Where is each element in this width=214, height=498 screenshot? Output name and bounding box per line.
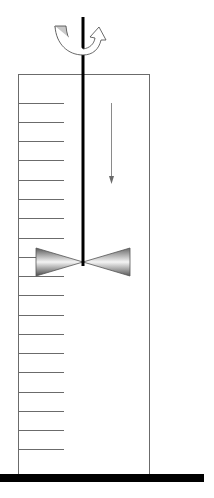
stirred-tank-diagram <box>0 0 214 498</box>
rotation-arrow-icon <box>55 26 106 55</box>
level-marks <box>19 104 64 450</box>
impeller-blade-right <box>83 248 130 276</box>
floor <box>0 474 204 482</box>
impeller-blade-left <box>36 248 83 276</box>
flow-arrow-icon <box>109 103 114 184</box>
